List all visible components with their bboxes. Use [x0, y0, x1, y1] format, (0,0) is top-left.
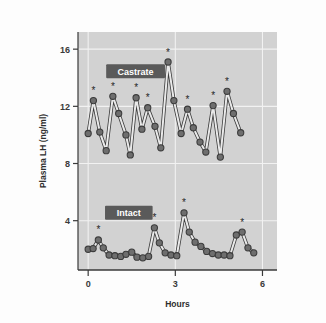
significance-star: * [211, 90, 215, 101]
x-axis-tick-label: 3 [173, 279, 178, 289]
data-point-marker [239, 229, 245, 235]
y-axis-tick-label: 4 [65, 216, 70, 226]
significance-star: * [146, 92, 150, 103]
data-point-marker [85, 130, 91, 136]
data-point-marker [192, 239, 198, 245]
data-point-marker [140, 255, 146, 261]
series-label-text: Intact [117, 208, 141, 218]
significance-star: * [225, 76, 229, 87]
data-point-marker [238, 130, 244, 136]
significance-star: * [111, 81, 115, 92]
data-point-marker [224, 88, 230, 94]
data-point-marker [156, 240, 162, 246]
data-point-marker [165, 59, 171, 65]
data-point-marker [129, 249, 135, 255]
data-point-marker [230, 110, 236, 116]
data-point-marker [227, 253, 233, 259]
data-point-marker [197, 139, 203, 145]
data-point-marker [251, 250, 257, 256]
significance-star: * [182, 197, 186, 208]
significance-star: * [96, 224, 100, 235]
significance-star: * [152, 212, 156, 223]
data-point-marker [139, 126, 145, 132]
x-axis-title: Hours [165, 299, 190, 309]
data-point-marker [221, 252, 227, 258]
data-point-marker [168, 252, 174, 258]
data-point-marker [97, 129, 103, 135]
y-axis: 481216Plasma LH (ng/ml) [38, 32, 78, 270]
data-point-marker [245, 245, 251, 251]
data-point-marker [95, 237, 101, 243]
data-point-marker [116, 110, 122, 116]
figure-container: 481216Plasma LH (ng/ml)036Hours*********… [0, 0, 326, 323]
data-point-marker [100, 245, 106, 251]
x-axis: 036Hours [78, 270, 277, 309]
data-point-marker [103, 148, 109, 154]
data-point-marker [209, 250, 215, 256]
data-point-marker [90, 245, 96, 251]
data-point-marker [110, 93, 116, 99]
significance-star: * [166, 47, 170, 58]
y-axis-tick-label: 8 [65, 159, 70, 169]
x-axis-tick-label: 6 [260, 279, 265, 289]
data-point-marker [145, 253, 151, 259]
data-point-marker [127, 152, 133, 158]
data-point-marker [174, 253, 180, 259]
data-point-marker [133, 95, 139, 101]
data-point-marker [233, 232, 239, 238]
series-label-castrate: Castrate [106, 64, 165, 78]
data-point-marker [217, 154, 223, 160]
series-label-intact: Intact [105, 206, 153, 220]
data-point-marker [190, 125, 196, 131]
lh-pulse-chart: 481216Plasma LH (ng/ml)036Hours*********… [0, 0, 326, 323]
data-point-marker [158, 145, 164, 151]
data-point-marker [123, 132, 129, 138]
data-point-marker [134, 254, 140, 260]
data-point-marker [184, 106, 190, 112]
significance-star: * [91, 85, 95, 96]
data-point-marker [210, 103, 216, 109]
data-point-marker [145, 105, 151, 111]
y-axis-title: Plasma LH (ng/ml) [38, 114, 48, 188]
data-point-marker [171, 98, 177, 104]
data-point-marker [151, 225, 157, 231]
data-point-marker [106, 252, 112, 258]
data-point-marker [198, 243, 204, 249]
data-point-marker [203, 149, 209, 155]
data-point-marker [112, 253, 118, 259]
data-point-marker [181, 210, 187, 216]
data-point-marker [178, 130, 184, 136]
significance-star: * [134, 82, 138, 93]
series-label-text: Castrate [118, 67, 154, 77]
significance-star: * [240, 217, 244, 228]
data-point-marker [186, 229, 192, 235]
x-axis-tick-label: 0 [86, 279, 91, 289]
y-axis-tick-label: 16 [60, 45, 70, 55]
significance-star: * [186, 94, 190, 105]
data-point-marker [152, 123, 158, 129]
data-point-marker [90, 98, 96, 104]
y-axis-tick-label: 12 [60, 102, 70, 112]
